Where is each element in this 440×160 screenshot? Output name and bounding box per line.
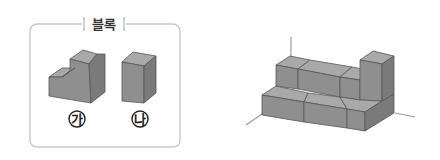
legend-title: 블록: [92, 17, 116, 32]
piece-label-ga: 가: [69, 111, 85, 127]
piece-na-figure: [122, 52, 156, 103]
top-block-1-front: [276, 65, 298, 89]
assembled-structure: [262, 51, 394, 131]
block-diagram: 블록 가 나: [0, 0, 440, 160]
axis-right: [395, 113, 415, 117]
bottom-block-3-front: [347, 109, 365, 131]
svg-text:나: 나: [134, 112, 146, 127]
axis-left: [246, 114, 262, 125]
tower-front: [360, 60, 382, 101]
piece-label-na: 나: [132, 111, 148, 127]
svg-text:가: 가: [71, 112, 83, 127]
top-block-3-front: [340, 77, 360, 100]
piece-ga-figure: [49, 50, 105, 103]
tower-side: [382, 56, 394, 101]
